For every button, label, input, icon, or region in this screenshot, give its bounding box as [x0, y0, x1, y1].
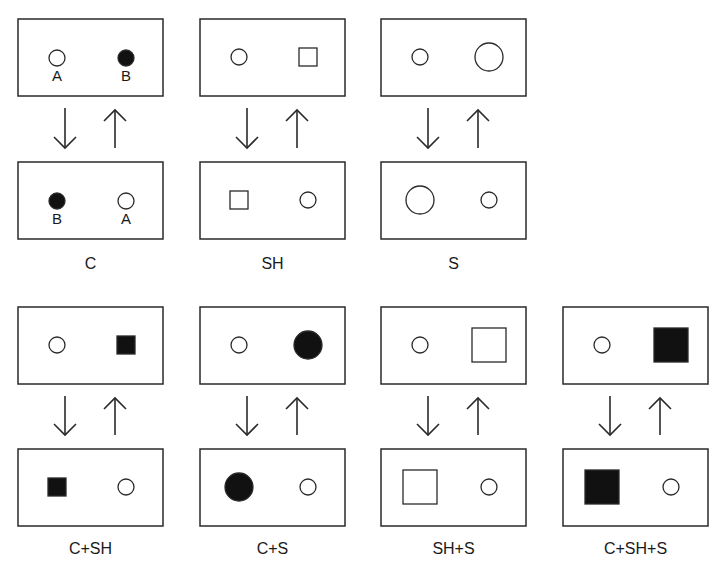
panel-c-plus-sh-plus-s-label: C+SH+S	[563, 540, 708, 558]
panel-c-plus-sh-plus-s-top-right-square-icon	[654, 328, 688, 362]
panel-c-plus-sh-label: C+SH	[18, 540, 163, 558]
panel-sh-bottom-right-circle-icon	[300, 192, 316, 208]
panel-sh-plus-s-top-left-circle-icon	[412, 337, 428, 353]
panel-c-plus-s-bottom-left-circle-icon	[225, 473, 253, 501]
panel-c-top-right-circle-icon	[118, 50, 134, 66]
panel-sh-top-box	[200, 19, 345, 96]
panel-sh-label: SH	[200, 255, 345, 273]
panel-c-plus-sh-plus-s-bottom-right-circle-icon	[663, 479, 679, 495]
panel-c-plus-sh-bottom-right-circle-icon	[118, 479, 134, 495]
panel-c-bottom-left-circle-icon	[49, 193, 65, 209]
panel-c-bottom-left-letter: B	[52, 210, 62, 227]
panel-c-bottom-right-circle-icon	[118, 193, 134, 209]
panel-s-bottom-left-circle-icon	[406, 186, 434, 214]
panel-sh-plus-s-label: SH+S	[381, 540, 526, 558]
diagram-canvas: ABBA	[0, 0, 721, 574]
panel-c-plus-s-bottom-box	[200, 449, 345, 526]
panel-c-plus-s-top-right-circle-icon	[294, 331, 322, 359]
panel-c-plus-s-label: C+S	[200, 540, 345, 558]
panel-c-plus-sh-bottom-left-square-icon	[48, 478, 66, 496]
panel-c-plus-sh-top-box	[18, 307, 163, 384]
panel-sh-top-left-circle-icon	[231, 49, 247, 65]
panel-c-top-box	[18, 19, 163, 96]
panel-c-top-right-letter: B	[121, 67, 131, 84]
panel-s-label: S	[381, 255, 526, 273]
panel-c-plus-sh-plus-s-bottom-left-square-icon	[585, 470, 619, 504]
panel-c-top-left-letter: A	[52, 67, 62, 84]
panel-c-plus-s-bottom-right-circle-icon	[300, 479, 316, 495]
panel-c-plus-sh-bottom-box	[18, 449, 163, 526]
panel-c-label: C	[18, 255, 163, 273]
panel-s-top-right-circle-icon	[475, 43, 503, 71]
panel-sh-bottom-left-square-icon	[230, 191, 248, 209]
panel-c-plus-sh-top-right-square-icon	[117, 336, 135, 354]
panel-sh-plus-s-bottom-left-square-icon	[403, 470, 437, 504]
panel-c-plus-s-top-left-circle-icon	[231, 337, 247, 353]
panel-s-bottom-box	[381, 162, 526, 239]
panel-c-bottom-right-letter: A	[121, 210, 131, 227]
panel-sh-plus-s-bottom-right-circle-icon	[481, 479, 497, 495]
panel-c-plus-s-top-box	[200, 307, 345, 384]
panel-s-top-box	[381, 19, 526, 96]
panel-s-top-left-circle-icon	[412, 49, 428, 65]
panel-c-plus-sh-plus-s-top-left-circle-icon	[594, 337, 610, 353]
panel-c-plus-sh-top-left-circle-icon	[49, 337, 65, 353]
panel-sh-plus-s-top-right-square-icon	[472, 328, 506, 362]
panel-c-top-left-circle-icon	[49, 50, 65, 66]
panel-sh-bottom-box	[200, 162, 345, 239]
panel-sh-top-right-square-icon	[299, 48, 317, 66]
panel-s-bottom-right-circle-icon	[481, 192, 497, 208]
panel-c-bottom-box	[18, 162, 163, 239]
